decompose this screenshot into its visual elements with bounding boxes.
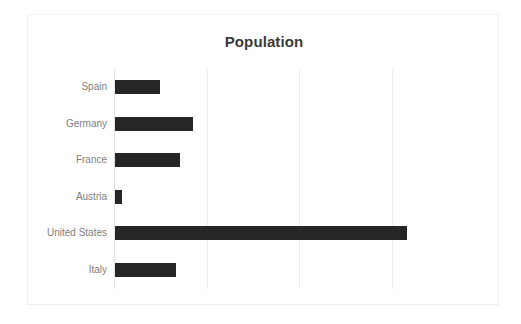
chart-container: Population Spain Germany France Austria …: [27, 14, 499, 305]
bar-row: Germany: [115, 106, 474, 143]
bar-italy[interactable]: [115, 263, 176, 277]
category-label-germany: Germany: [66, 115, 107, 133]
bar-spain[interactable]: [115, 80, 160, 94]
category-label-spain: Spain: [81, 78, 107, 96]
bar-austria[interactable]: [115, 190, 122, 204]
category-label-austria: Austria: [76, 188, 107, 206]
bar-row: United States: [115, 215, 474, 252]
plot-area: Spain Germany France Austria United Stat…: [114, 69, 474, 289]
chart-title: Population: [28, 33, 500, 50]
bar-germany[interactable]: [115, 117, 193, 131]
category-label-italy: Italy: [89, 261, 107, 279]
category-label-united-states: United States: [47, 224, 107, 242]
bar-row: Austria: [115, 179, 474, 216]
bar-row: Spain: [115, 69, 474, 106]
bar-row: Italy: [115, 252, 474, 289]
bar-france[interactable]: [115, 153, 180, 167]
bar-row: France: [115, 142, 474, 179]
category-label-france: France: [76, 151, 107, 169]
bar-united-states[interactable]: [115, 226, 407, 240]
